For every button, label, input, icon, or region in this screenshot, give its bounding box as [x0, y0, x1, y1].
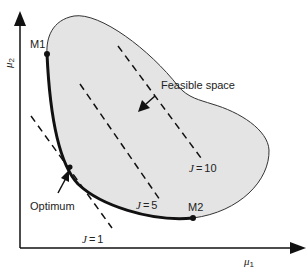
optimum-arrow-shaft	[58, 178, 66, 193]
contour-label-j5: J=5	[136, 199, 157, 211]
m1-label: M1	[30, 38, 45, 50]
x-axis-arrow-icon	[290, 242, 306, 254]
feasible-space-label: Feasible space	[161, 79, 235, 91]
optimum-label: Optimum	[30, 200, 75, 212]
contour-label-j1: J=1	[82, 233, 103, 245]
y-axis-label: μ2	[2, 57, 16, 69]
feasible-region	[47, 16, 269, 219]
x-axis-label: μ1	[243, 255, 255, 269]
y-axis-arrow-icon	[14, 11, 26, 26]
feasible-space-diagram: M1 M2 Optimum Feasible space J=1 J=5 J=1…	[0, 0, 308, 272]
m2-point	[190, 215, 196, 221]
m2-label: M2	[188, 201, 203, 213]
m1-point	[44, 51, 50, 57]
optimum-point	[68, 165, 73, 170]
